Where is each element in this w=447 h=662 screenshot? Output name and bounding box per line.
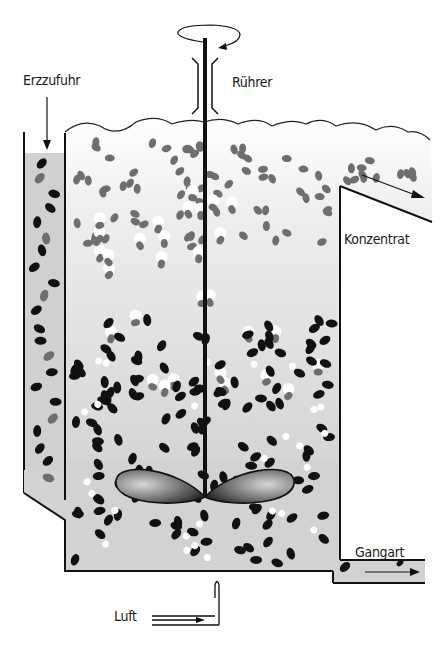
rotation-arrow-icon (178, 25, 240, 50)
stirrer-shaft (203, 38, 207, 498)
stirrer-label: Rührer (232, 74, 272, 90)
gangue-label: Gangart (355, 544, 404, 560)
concentrate-label: Konzentrat (344, 231, 409, 247)
feed-channel (24, 132, 65, 493)
air-label: Luft (114, 608, 137, 624)
feed-label: Erzzufuhr (23, 72, 80, 88)
flotation-cell-diagram: Erzzufuhr Rührer Konzentrat Gangart Luft (0, 0, 447, 662)
air-pipe (152, 582, 219, 626)
feed-arrow-icon (43, 97, 51, 150)
